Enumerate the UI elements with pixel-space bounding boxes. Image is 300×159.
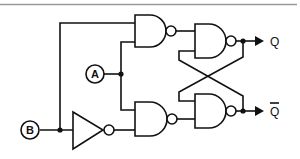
output-q-label: Q [270,35,279,49]
output-qbar: Q [270,103,279,119]
nand-gate-1 [135,15,195,47]
input-a-label: A [91,68,99,80]
nand-gate-4 [195,94,264,128]
input-b-label: B [26,124,34,136]
junction-b [57,127,62,132]
q-arrow-icon [255,36,264,46]
input-a-terminal: A [86,65,104,83]
nand-gate-3 [195,24,264,58]
nand-gate-2 [135,102,195,136]
circuit-diagram: A B Q Q [0,0,300,159]
junction-a [118,71,123,76]
output-qbar-label: Q [270,105,279,119]
inverter-gate [73,112,135,149]
input-b-terminal: B [21,121,39,139]
input-a-wiring [104,42,135,110]
qbar-arrow-icon [255,106,264,116]
